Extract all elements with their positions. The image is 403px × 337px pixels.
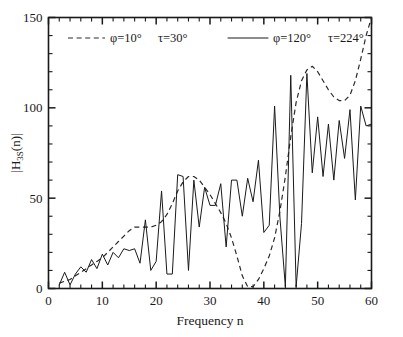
y-tick-label: 50 — [30, 191, 43, 206]
y-tick-label: 150 — [23, 10, 43, 25]
x-tick-label: 40 — [257, 293, 270, 308]
x-tick-label: 10 — [96, 293, 109, 308]
legend-label-solid-phi: φ=120° — [273, 31, 311, 45]
y-axis-title-subscript: 3S — [15, 151, 25, 161]
legend-label-dashed-tau: τ=30° — [158, 31, 188, 45]
chart-figure-root: 050100150 0102030405060 φ=10° τ=30° φ=12… — [0, 0, 403, 337]
x-tick-label: 20 — [150, 293, 163, 308]
frequency-response-chart: 050100150 0102030405060 φ=10° τ=30° φ=12… — [0, 0, 403, 337]
x-tick-label: 60 — [365, 293, 378, 308]
legend-label-dashed-phi: φ=10° — [110, 31, 142, 45]
x-tick-label: 50 — [311, 293, 324, 308]
legend-label-solid-tau: τ=224° — [328, 31, 364, 45]
y-axis-title-part1: |H — [8, 161, 23, 173]
y-tick-label: 0 — [36, 281, 43, 296]
figure-background — [0, 0, 403, 337]
x-axis-title: Frequency n — [176, 313, 243, 328]
y-tick-label: 100 — [23, 100, 43, 115]
y-axis-title-part2: (n)| — [8, 133, 23, 151]
x-tick-label: 30 — [204, 293, 217, 308]
x-tick-label: 0 — [45, 293, 52, 308]
